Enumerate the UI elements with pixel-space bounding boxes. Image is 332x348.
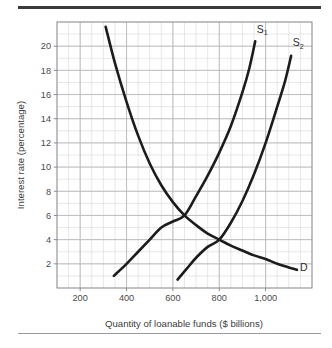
chart-plot-area: DS1S2 2004006008001,000 2468101214161820… — [0, 0, 332, 348]
y-axis-tick-labels: 2468101214161820 — [41, 41, 51, 269]
y-tick-label: 6 — [46, 211, 51, 221]
y-tick-label: 16 — [41, 90, 51, 100]
curve-label-d: D — [300, 261, 308, 273]
y-axis-title: Interest rate (percentage) — [15, 101, 26, 209]
data-curves — [106, 27, 297, 280]
y-tick-label: 14 — [41, 114, 51, 124]
x-tick-label: 600 — [165, 293, 180, 303]
x-axis-title: Quantity of loanable funds ($ billions) — [105, 318, 263, 329]
y-tick-label: 18 — [41, 66, 51, 76]
x-axis-tick-labels: 2004006008001,000 — [73, 293, 278, 303]
x-tick-label: 800 — [212, 293, 227, 303]
x-tick-label: 200 — [73, 293, 88, 303]
y-tick-label: 4 — [46, 235, 51, 245]
x-tick-label: 400 — [119, 293, 134, 303]
figure-container: DS1S2 2004006008001,000 2468101214161820… — [0, 0, 332, 348]
loanable-funds-chart: DS1S2 2004006008001,000 2468101214161820… — [0, 0, 332, 348]
x-tick-label: 1,000 — [254, 293, 277, 303]
axis-tick-marks — [54, 46, 266, 291]
grid-minor-lines — [57, 22, 312, 288]
curve-d — [106, 27, 297, 270]
curve-label-s2: S2 — [293, 36, 304, 50]
y-tick-label: 2 — [46, 259, 51, 269]
y-tick-label: 10 — [41, 162, 51, 172]
y-tick-label: 20 — [41, 41, 51, 51]
y-tick-label: 8 — [46, 187, 51, 197]
y-tick-label: 12 — [41, 138, 51, 148]
